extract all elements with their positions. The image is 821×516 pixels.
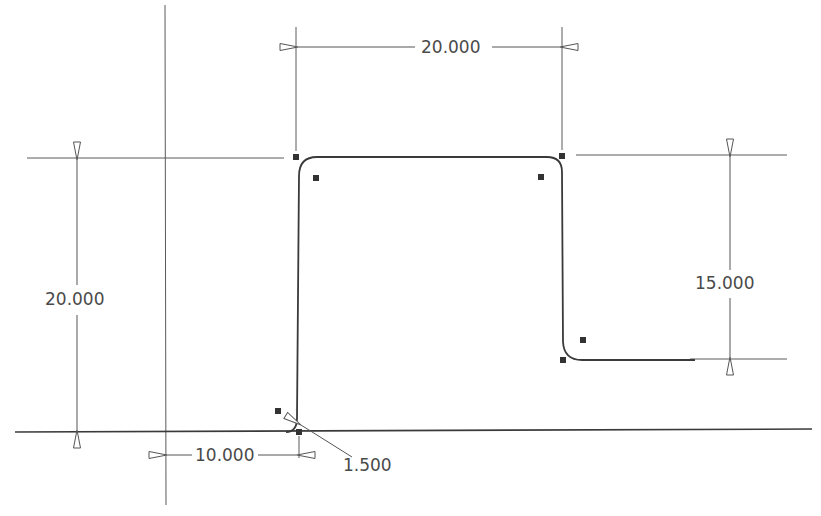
- sketch-point[interactable]: [275, 408, 281, 414]
- sketch-profile[interactable]: [286, 157, 695, 432]
- dimension-label-bottom-offset[interactable]: 10.000: [194, 445, 255, 465]
- sketch-points: [275, 153, 586, 435]
- sketch-point[interactable]: [559, 153, 565, 159]
- sketch-point[interactable]: [560, 357, 566, 363]
- base-line[interactable]: [15, 429, 812, 432]
- sketch-point[interactable]: [580, 337, 586, 343]
- sketch-point[interactable]: [313, 175, 319, 181]
- sketch-point[interactable]: [293, 154, 299, 160]
- dimension-label-right-height[interactable]: 15.000: [694, 273, 755, 293]
- sketch-canvas[interactable]: [0, 0, 821, 516]
- dimension-label-top-width[interactable]: 20.000: [420, 37, 481, 57]
- vertical-axis-line[interactable]: [165, 5, 166, 505]
- dimension-fillet-radius[interactable]: [301, 425, 352, 457]
- sketch-point[interactable]: [296, 429, 302, 435]
- sketch-point[interactable]: [538, 174, 544, 180]
- dimension-label-left-height[interactable]: 20.000: [44, 289, 105, 309]
- dimension-label-fillet-radius[interactable]: 1.500: [342, 455, 393, 475]
